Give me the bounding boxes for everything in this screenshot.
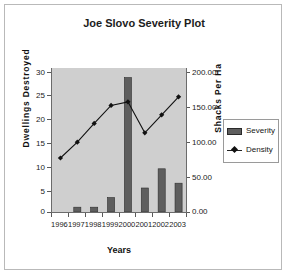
y-axis-right-title: Shacks Per Ha	[213, 33, 223, 163]
chart-legend: Severity Density	[223, 119, 279, 163]
x-axis-label-2003: 2003	[167, 220, 189, 229]
bar-1998	[91, 207, 98, 212]
chart-frame: Joe Slovo Severity Plot 30 25 20 15 10 5…	[4, 4, 282, 270]
x-axis-tickmark	[102, 213, 103, 217]
bar-1999	[108, 198, 115, 212]
y-axis-right-tick-0: 0.00	[192, 208, 226, 216]
legend-label-severity: Severity	[246, 126, 275, 135]
y-axis-left-title: Dwellings Destroyed	[21, 33, 31, 163]
bar-2003	[175, 183, 182, 212]
bar-series	[74, 78, 182, 212]
legend-item-severity[interactable]: Severity	[227, 125, 279, 138]
legend-swatch-bar-icon	[227, 128, 242, 135]
y-axis-right-tick-50: 50.00	[192, 174, 226, 182]
x-axis-tickmark	[135, 213, 136, 217]
legend-item-density[interactable]: Density	[227, 144, 279, 157]
bar-2001	[141, 188, 148, 212]
legend-swatch-diamond-icon	[231, 146, 238, 153]
y-axis-left-tick-5: 5	[23, 188, 45, 196]
x-axis-tickmark	[85, 213, 86, 217]
bar-2002	[158, 169, 165, 212]
x-axis-tickmark	[119, 213, 120, 217]
plot-area	[51, 68, 186, 212]
plot-svg	[52, 68, 187, 212]
density-line	[60, 97, 178, 158]
bar-1997	[74, 207, 81, 212]
bar-2000	[124, 78, 131, 212]
legend-label-density: Density	[246, 145, 273, 154]
x-axis-title: Years	[51, 245, 187, 255]
x-axis-tickmark	[51, 213, 52, 217]
x-axis-tickmark	[68, 213, 69, 217]
y-axis-left-tick-10: 10	[23, 164, 45, 172]
x-axis-tickmark	[169, 213, 170, 217]
x-axis-tickmark	[186, 213, 187, 217]
chart-title: Joe Slovo Severity Plot	[5, 17, 283, 29]
x-axis-tickmark	[152, 213, 153, 217]
y-axis-left-tick-0: 0	[23, 208, 45, 216]
